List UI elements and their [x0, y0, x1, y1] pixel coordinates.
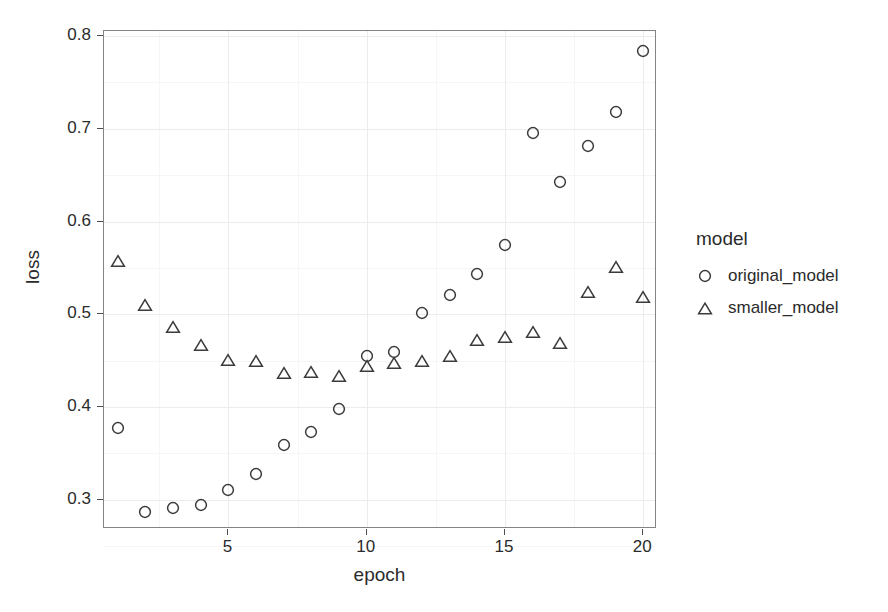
y-tick-label: 0.4 — [41, 396, 91, 416]
gridline-major-x — [643, 31, 644, 527]
data-point-triangle — [165, 320, 181, 335]
circle-marker-icon — [690, 261, 720, 291]
gridline-major-y — [104, 407, 655, 408]
y-tick-mark — [97, 221, 103, 222]
legend-item-label: original_model — [728, 266, 839, 286]
gridline-minor-y — [104, 546, 655, 547]
data-point-circle — [332, 402, 346, 416]
gridline-minor-y — [104, 453, 655, 454]
data-point-triangle — [276, 365, 292, 380]
data-point-circle — [581, 139, 595, 153]
data-point-triangle — [110, 254, 126, 269]
gridline-major-y — [104, 129, 655, 130]
data-point-triangle — [137, 298, 153, 313]
gridline-minor-x — [436, 31, 437, 527]
gridline-minor-y — [104, 175, 655, 176]
x-tick-mark — [504, 529, 505, 535]
legend-title: model — [696, 228, 880, 250]
x-tick-label: 20 — [633, 537, 652, 557]
legend-item-label: smaller_model — [728, 298, 839, 318]
y-tick-mark — [97, 128, 103, 129]
scatter-plot-figure: 0.30.40.50.60.70.8 loss 5101520 epoch mo… — [0, 0, 888, 612]
data-point-triangle — [580, 285, 596, 300]
y-tick-label: 0.3 — [41, 489, 91, 509]
gridline-major-x — [228, 31, 229, 527]
gridline-major-y — [104, 36, 655, 37]
gridline-minor-y — [104, 268, 655, 269]
data-point-circle — [304, 425, 318, 439]
data-point-circle — [387, 345, 401, 359]
gridline-minor-x — [574, 31, 575, 527]
y-tick-label: 0.8 — [41, 25, 91, 45]
gridline-minor-y — [104, 361, 655, 362]
data-point-triangle — [303, 364, 319, 379]
gridline-minor-x — [159, 31, 160, 527]
data-point-triangle — [525, 324, 541, 339]
y-tick-label: 0.6 — [41, 211, 91, 231]
data-point-triangle — [469, 333, 485, 348]
data-point-circle — [553, 175, 567, 189]
y-axis-title: loss — [22, 222, 44, 312]
legend-entries: original_modelsmaller_model — [690, 260, 880, 324]
data-point-circle — [443, 288, 457, 302]
data-point-triangle — [386, 355, 402, 370]
data-point-circle — [609, 105, 623, 119]
x-tick-mark — [227, 529, 228, 535]
legend-item-smaller_model[interactable]: smaller_model — [690, 292, 880, 324]
legend-item-original_model[interactable]: original_model — [690, 260, 880, 292]
y-tick-mark — [97, 35, 103, 36]
x-tick-label: 10 — [356, 537, 375, 557]
x-tick-label: 5 — [223, 537, 232, 557]
gridline-major-y — [104, 500, 655, 501]
data-point-circle — [111, 421, 125, 435]
data-point-circle — [166, 501, 180, 515]
data-point-triangle — [193, 337, 209, 352]
data-point-circle — [277, 438, 291, 452]
y-tick-label: 0.5 — [41, 303, 91, 323]
y-tick-label: 0.7 — [41, 118, 91, 138]
gridline-major-y — [104, 222, 655, 223]
y-tick-mark — [97, 313, 103, 314]
plot-panel — [103, 30, 656, 528]
x-tick-mark — [366, 529, 367, 535]
data-point-triangle — [552, 336, 568, 351]
x-axis-title: epoch — [103, 564, 656, 586]
gridline-major-x — [505, 31, 506, 527]
data-point-triangle — [331, 369, 347, 384]
triangle-marker-icon — [690, 293, 720, 323]
legend: model original_modelsmaller_model — [690, 228, 880, 324]
y-tick-mark — [97, 406, 103, 407]
data-point-circle — [138, 505, 152, 519]
gridline-major-y — [104, 314, 655, 315]
gridline-minor-x — [298, 31, 299, 527]
y-tick-mark — [97, 499, 103, 500]
gridline-major-x — [367, 31, 368, 527]
data-point-circle — [249, 467, 263, 481]
y-axis: 0.30.40.50.60.70.8 — [0, 0, 103, 612]
x-tick-mark — [642, 529, 643, 535]
gridline-minor-y — [104, 82, 655, 83]
x-tick-label: 15 — [494, 537, 513, 557]
